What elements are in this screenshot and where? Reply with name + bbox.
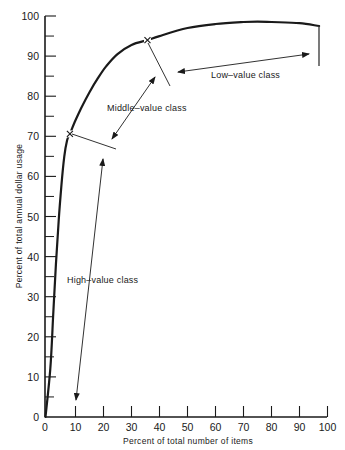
y-tick-label: 20 — [27, 331, 39, 343]
x-tick-label: 100 — [319, 421, 337, 433]
high-value-label: High–value class — [67, 275, 139, 285]
low-value-label: Low–value class — [211, 70, 280, 80]
x-tick-label: 30 — [126, 421, 138, 433]
y-tick-label: 40 — [27, 251, 39, 263]
middle-value-label: Middle–value class — [107, 103, 187, 113]
y-axis-ticks — [45, 16, 56, 397]
y-tick-label: 10 — [27, 371, 39, 383]
x-axis-ticks — [76, 406, 328, 417]
abc-curve-chart: 0102030405060708090100 01020304050607080… — [0, 0, 345, 450]
x-tick-label: 70 — [238, 421, 250, 433]
y-tick-label: 90 — [27, 50, 39, 62]
y-tick-label: 100 — [21, 10, 39, 22]
y-tick-label: 0 — [33, 411, 39, 423]
x-tick-labels: 0102030405060708090100 — [42, 421, 336, 433]
x-tick-label: 50 — [182, 421, 194, 433]
x-axis-title: Percent of total number of items — [123, 436, 253, 446]
boundary-line-high-middle — [72, 134, 116, 149]
x-tick-label: 0 — [42, 421, 48, 433]
boundary-line-middle-low — [148, 43, 170, 86]
x-tick-label: 80 — [266, 421, 278, 433]
cumulative-curve — [46, 22, 320, 417]
class-boundary-markers — [66, 37, 151, 138]
x-marker-icon — [144, 37, 151, 44]
x-tick-label: 90 — [294, 421, 306, 433]
y-tick-label: 60 — [27, 170, 39, 182]
y-tick-label: 80 — [27, 90, 39, 102]
x-tick-label: 20 — [98, 421, 110, 433]
y-tick-labels: 0102030405060708090100 — [21, 10, 39, 423]
x-tick-label: 60 — [210, 421, 222, 433]
y-tick-label: 30 — [27, 291, 39, 303]
x-tick-label: 10 — [70, 421, 82, 433]
x-axis — [45, 406, 328, 417]
y-tick-label: 70 — [27, 130, 39, 142]
x-tick-label: 40 — [154, 421, 166, 433]
y-axis-title: Percent of total annual dollar usage — [14, 144, 24, 289]
y-tick-label: 50 — [27, 211, 39, 223]
